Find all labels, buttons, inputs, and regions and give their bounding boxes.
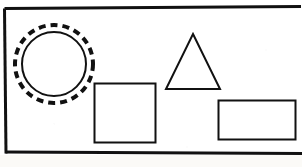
triangle-shape[interactable] <box>166 34 220 89</box>
worksheet-page <box>0 0 302 167</box>
circle-shape[interactable] <box>22 32 86 96</box>
shape-square-group[interactable] <box>95 84 156 143</box>
shape-circle-group[interactable] <box>15 25 93 103</box>
rectangle-shape[interactable] <box>219 101 296 140</box>
shapes-figure <box>0 0 302 167</box>
shape-rectangle-group[interactable] <box>219 101 296 140</box>
panel-border <box>5 7 303 154</box>
panel-border-bottom <box>6 152 303 154</box>
shape-triangle-group[interactable] <box>166 34 220 89</box>
panel-border-top <box>5 7 302 9</box>
panel-border-left <box>5 9 7 154</box>
selection-ring-icon <box>15 25 93 103</box>
square-shape[interactable] <box>95 84 156 143</box>
